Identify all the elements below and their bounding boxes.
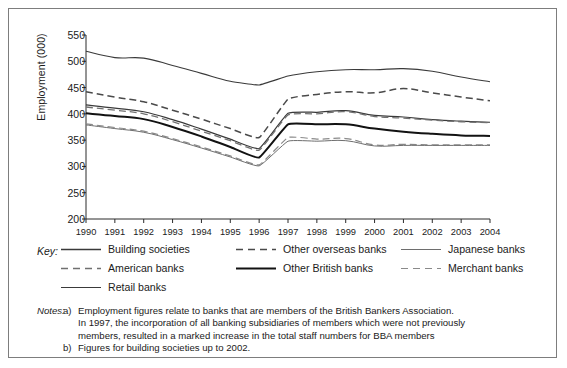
series-line [86,124,490,165]
y-axis-tick-label: 300 [67,161,85,172]
x-axis-tick-label: 1995 [220,227,241,237]
legend-item[interactable]: Retail banks [61,281,166,293]
note-item: b)Figures for building societies up to 2… [37,342,537,354]
y-axis-tick-label: 400 [67,109,85,120]
legend-item-label: Merchant banks [448,262,523,274]
x-axis-tick-label: 1992 [133,227,154,237]
note-text: Employment figures relate to banks that … [78,305,454,316]
legend-item[interactable]: Merchant banks [401,262,523,274]
legend-line-swatch-icon [61,283,101,292]
legend-line-swatch-icon [236,245,276,254]
line-chart-svg [9,9,558,224]
legend-item-label: Other British banks [283,262,373,274]
x-axis-tick-label: 1994 [191,227,212,237]
legend-line-swatch-icon [61,245,101,254]
x-axis-tick-label: 1990 [76,227,97,237]
legend-item[interactable]: American banks [61,262,184,274]
y-axis-tick-label: 350 [67,135,85,146]
plot-area: Employment (000) 20025030035040045050055… [9,9,558,224]
legend-title: Key: [37,245,58,257]
y-axis-tick-label: 550 [67,30,85,41]
note-marker: a) [63,305,72,317]
x-axis-tick-label: 2000 [364,227,385,237]
x-axis-tick-label: 1996 [249,227,270,237]
chart-figure-panel: Employment (000) 20025030035040045050055… [8,8,557,358]
legend-item[interactable]: Japanese banks [401,243,525,255]
x-axis-tick-label: 2003 [451,227,472,237]
x-axis-tick-label: 1999 [335,227,356,237]
legend-item[interactable]: Building societies [61,243,190,255]
x-axis-tick-label: 1998 [307,227,328,237]
note-text: In 1997, the incorporation of all bankin… [37,317,537,329]
x-axis-tick-label: 2002 [422,227,443,237]
y-axis-tick-label: 450 [67,83,85,94]
x-axis-tick-label: 1993 [162,227,183,237]
legend-item[interactable]: Other British banks [236,262,373,274]
note-text: members, resulted in a marked increase i… [37,330,537,342]
legend-item[interactable]: Other overseas banks [236,243,387,255]
figure-notes: Notes: a)Employment figures relate to ba… [37,305,537,355]
x-axis-tick-label: 1997 [278,227,299,237]
legend-line-swatch-icon [236,264,276,273]
x-axis-tick-label: 2001 [393,227,414,237]
y-axis-title: Employment (000) [35,17,47,137]
x-axis-tick-label: 2004 [480,227,501,237]
note-marker: b) [63,342,72,354]
legend-line-swatch-icon [61,264,101,273]
x-axis-tick-label: 1991 [105,227,126,237]
y-axis-tick-label: 250 [67,188,85,199]
series-line [86,125,490,166]
legend-item-label: American banks [108,262,184,274]
legend-line-swatch-icon [401,245,441,254]
note-item: a)Employment figures relate to banks tha… [37,305,537,317]
legend-item-label: Building societies [108,243,190,255]
y-axis-tick-label: 500 [67,56,85,67]
y-axis-tick-labels: 200250300350400450500550 [47,9,85,224]
legend-item-label: Japanese banks [448,243,525,255]
legend-item-label: Retail banks [108,281,166,293]
chart-legend: Key: Building societiesOther overseas ba… [9,243,558,301]
series-line [86,105,490,149]
legend-item-label: Other overseas banks [283,243,387,255]
note-text: Figures for building societies up to 200… [78,342,250,353]
legend-line-swatch-icon [401,264,441,273]
x-axis-tick-labels: 1990199119921993199419951996199719981999… [9,222,558,238]
series-line [86,51,490,85]
